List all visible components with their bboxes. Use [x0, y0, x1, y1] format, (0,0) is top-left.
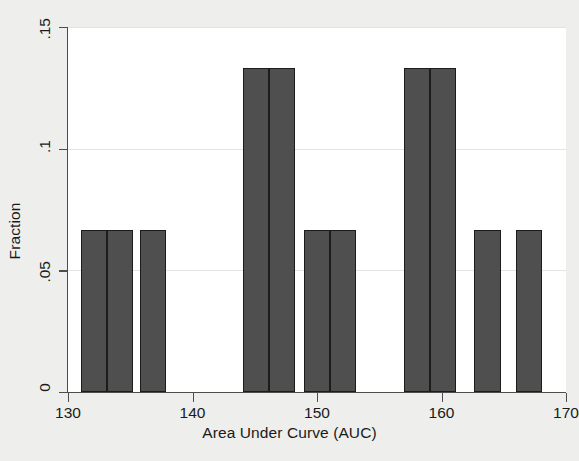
x-axis-tick — [68, 393, 69, 402]
histogram-bar — [304, 230, 330, 392]
y-axis-tick-label: 0 — [37, 383, 53, 392]
histogram-bar — [474, 230, 500, 392]
histogram-bar — [330, 230, 356, 392]
y-axis-tick-label: .05 — [37, 261, 53, 283]
histogram-bar — [430, 68, 456, 392]
gridline — [68, 149, 566, 150]
x-axis-tick — [317, 393, 318, 402]
x-axis-title: Area Under Curve (AUC) — [0, 424, 579, 442]
y-axis-line — [67, 27, 68, 393]
histogram-bar — [404, 68, 430, 392]
x-axis-tick-label: 130 — [55, 404, 81, 422]
histogram-bar — [516, 230, 542, 392]
y-axis-title: Fraction — [6, 202, 24, 259]
histogram-bar — [140, 230, 166, 392]
gridline — [68, 27, 566, 28]
x-axis-tick-label: 170 — [553, 404, 579, 422]
histogram-bar — [243, 68, 269, 392]
x-axis-tick-label: 140 — [180, 404, 206, 422]
x-axis-tick — [566, 393, 567, 402]
histogram-bar — [81, 230, 107, 392]
histogram-bar — [107, 230, 133, 392]
x-axis-tick-label: 160 — [429, 404, 455, 422]
histogram-figure: 0.05.1.15 130140150160170 Fraction Area … — [0, 0, 579, 461]
y-axis-tick-label: .15 — [37, 18, 53, 40]
histogram-bar — [269, 68, 295, 392]
x-axis-tick — [442, 393, 443, 402]
x-axis-tick-label: 150 — [304, 404, 330, 422]
y-axis-tick-label: .1 — [37, 140, 53, 153]
x-axis-tick — [193, 393, 194, 402]
x-axis-line — [67, 392, 566, 393]
